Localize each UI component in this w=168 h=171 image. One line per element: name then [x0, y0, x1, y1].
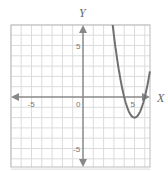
x-tick-label: 5	[131, 100, 136, 109]
y-axis-arrow-up-icon	[79, 25, 87, 33]
y-tick-label: 5	[76, 42, 81, 51]
y-tick-label: -5	[73, 145, 81, 154]
coordinate-graph: -5055-5 X Y	[0, 0, 168, 171]
x-tick-label: 0	[76, 100, 81, 109]
x-axis-arrow-left-icon	[11, 93, 19, 101]
x-axis-label: X	[156, 91, 165, 105]
y-axis-label: Y	[79, 6, 87, 20]
y-axis-arrow-down-icon	[79, 159, 87, 167]
x-tick-label: -5	[28, 100, 36, 109]
